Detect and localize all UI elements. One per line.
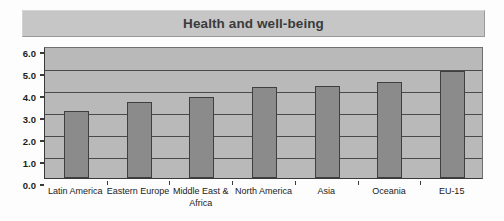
- y-axis-tick-label: 1.0: [23, 158, 40, 169]
- bar: [252, 87, 277, 178]
- y-axis-tick-label: 5.0: [23, 70, 40, 81]
- y-axis-tick-label: 6.0: [23, 48, 40, 59]
- y-axis-tick: 2.0: [23, 135, 44, 147]
- y-axis-tick: 4.0: [23, 91, 44, 103]
- y-axis-tick-label: 3.0: [23, 114, 40, 125]
- y-axis-tick: 6.0: [23, 47, 44, 59]
- y-axis-tick: 5.0: [23, 69, 44, 81]
- x-axis-tick-mark: [232, 181, 233, 185]
- chart-title: Health and well-being: [183, 16, 324, 31]
- y-axis-tick: 3.0: [23, 113, 44, 125]
- bar: [127, 102, 152, 178]
- chart-title-band: Health and well-being: [22, 10, 485, 37]
- x-axis-category-label: EU-15: [414, 186, 489, 198]
- x-axis: Latin AmericaEastern EuropeMiddle East &…: [44, 181, 483, 221]
- bar: [64, 111, 89, 178]
- y-axis-tick-label: 4.0: [23, 92, 40, 103]
- y-axis-tick-label: 2.0: [23, 136, 40, 147]
- bar: [377, 82, 402, 178]
- x-axis-tick-mark: [169, 181, 170, 185]
- x-axis-tick-mark: [420, 181, 421, 185]
- bar: [189, 97, 214, 178]
- bars-layer: [45, 48, 482, 178]
- x-axis-tick-mark: [358, 181, 359, 185]
- bar-chart-figure: Health and well-being 6.05.04.03.02.01.0…: [0, 0, 504, 221]
- bar: [440, 71, 465, 178]
- bar: [315, 86, 340, 178]
- y-axis: 6.05.04.03.02.01.00.0: [0, 41, 44, 186]
- y-axis-tick: 1.0: [23, 157, 44, 169]
- x-axis-tick-mark: [107, 181, 108, 185]
- x-axis-tick-mark: [295, 181, 296, 185]
- plot-area: [44, 47, 483, 179]
